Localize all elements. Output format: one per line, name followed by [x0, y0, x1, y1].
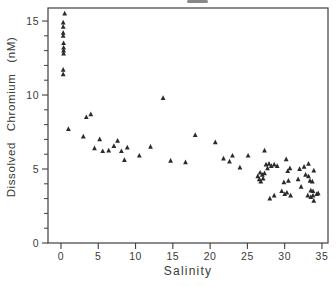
data-point-triangle — [62, 11, 67, 16]
x-tick-label: 15 — [166, 250, 179, 262]
data-point-triangle — [288, 166, 293, 171]
y-tick-label: 10 — [26, 89, 39, 101]
y-tick-label: 15 — [26, 15, 39, 27]
data-point-triangle — [227, 159, 232, 164]
data-point-triangle — [305, 193, 310, 198]
data-point-triangle — [296, 177, 301, 182]
data-point-triangle — [279, 188, 284, 193]
y-tick-label: 5 — [33, 163, 39, 175]
scatter-plot: 05101505101520253035 — [0, 0, 336, 286]
data-point-triangle — [168, 158, 173, 163]
data-point-triangle — [297, 166, 302, 171]
data-point-triangle — [213, 140, 218, 145]
data-point-triangle — [285, 190, 290, 195]
data-point-triangle — [246, 153, 251, 158]
data-point-triangle — [311, 193, 316, 198]
plot-border — [48, 8, 328, 243]
data-point-triangle — [66, 126, 71, 131]
x-tick-label: 20 — [204, 250, 217, 262]
data-point-triangle — [284, 157, 289, 162]
figure-container: 05101505101520253035 Dissolved Chromium … — [0, 0, 336, 286]
data-point-triangle — [299, 184, 304, 189]
data-point-triangle — [148, 144, 153, 149]
data-point-triangle — [122, 157, 127, 162]
data-point-triangle — [238, 165, 243, 170]
data-point-triangle — [61, 67, 66, 72]
data-point-triangle — [88, 112, 93, 117]
data-point-triangle — [106, 148, 111, 153]
data-point-triangle — [81, 134, 86, 139]
data-point-triangle — [288, 193, 293, 198]
data-point-triangle — [92, 146, 97, 151]
x-tick-label: 25 — [241, 250, 254, 262]
y-axis-title: Dissolved Chromium (nM) — [5, 7, 21, 227]
x-axis-title: Salinity — [48, 264, 328, 278]
data-point-triangle — [97, 137, 102, 142]
data-point-triangle — [183, 160, 188, 165]
x-tick-label: 10 — [129, 250, 142, 262]
data-point-triangle — [61, 20, 66, 25]
data-point-triangle — [306, 161, 311, 166]
data-point-triangle — [267, 196, 272, 201]
data-point-triangle — [221, 156, 226, 161]
y-tick-label: 0 — [33, 237, 39, 249]
data-point-triangle — [61, 24, 66, 29]
x-tick-label: 5 — [95, 250, 101, 262]
data-point-triangle — [84, 114, 89, 119]
data-point-triangle — [311, 168, 316, 173]
data-point-triangle — [119, 148, 124, 153]
data-point-triangle — [272, 193, 277, 198]
data-point-triangle — [282, 180, 287, 185]
data-point-triangle — [137, 153, 142, 158]
data-point-triangle — [262, 148, 267, 153]
data-point-triangle — [112, 143, 117, 148]
data-point-triangle — [262, 171, 267, 176]
data-point-triangle — [100, 148, 105, 153]
data-point-triangle — [125, 145, 130, 150]
x-tick-label: 35 — [316, 250, 329, 262]
data-point-triangle — [61, 40, 66, 45]
data-point-triangle — [115, 138, 120, 143]
data-point-triangle — [193, 132, 198, 137]
data-point-triangle — [302, 164, 307, 169]
x-tick-label: 30 — [278, 250, 291, 262]
data-point-triangle — [230, 153, 235, 158]
data-point-triangle — [161, 95, 166, 100]
data-point-triangle — [286, 178, 291, 183]
data-point-triangle — [61, 72, 66, 77]
x-tick-label: 0 — [58, 250, 64, 262]
